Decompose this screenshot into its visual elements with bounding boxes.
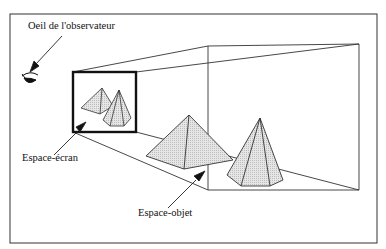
eye-label: Oeil de l'observateur <box>28 20 115 31</box>
screen-leader <box>54 122 86 155</box>
object-space-label: Espace-objet <box>138 207 192 218</box>
object-leader <box>168 171 205 208</box>
object-pyramid-square <box>146 115 233 169</box>
object-pyramid-hexagonal <box>227 118 283 186</box>
screen-pyramids <box>81 88 131 126</box>
eye-icon <box>22 73 38 83</box>
perspective-diagram <box>0 0 386 249</box>
screen-space-label: Espace-écran <box>22 152 78 163</box>
eye-leader <box>30 36 62 72</box>
